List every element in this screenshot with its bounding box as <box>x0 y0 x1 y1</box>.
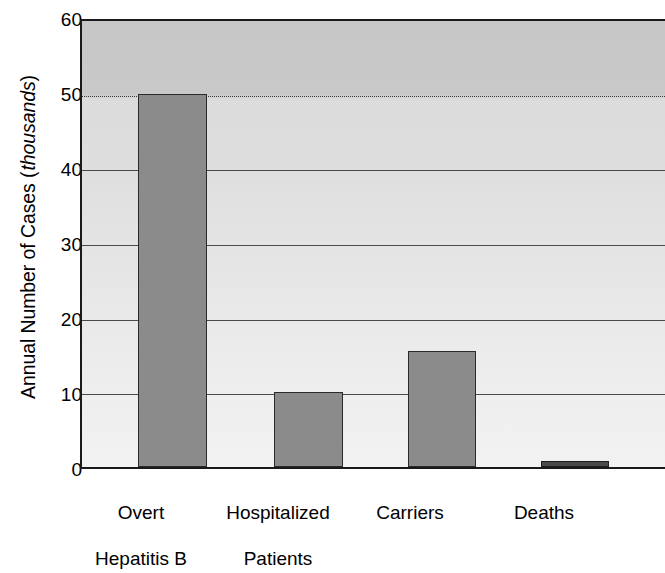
y-tick-label-30: 30 <box>34 235 82 254</box>
x-tick-label-line1: Overt <box>86 501 196 524</box>
bar-hospitalized-patients <box>274 392 343 467</box>
plot-inner <box>82 21 665 467</box>
bar-carriers <box>408 351 476 467</box>
y-tick-label-50: 50 <box>34 85 82 104</box>
x-tick-label-line1: Carriers <box>350 501 470 524</box>
x-tick-label-line2: Patients <box>222 547 334 570</box>
y-tick-label-0: 0 <box>34 460 82 479</box>
x-tick-label-hospitalized-patients: Hospitalized Patients <box>222 478 334 573</box>
bar-overt-hepatitis-b <box>138 94 207 467</box>
x-tick-label-carriers: Carriers <box>350 478 470 547</box>
y-axis-title-plain: Annual Number of Cases ( <box>17 172 40 399</box>
y-tick-label-60: 60 <box>34 10 82 29</box>
y-axis-title-tail: ) <box>17 75 40 81</box>
x-tick-label-deaths: Deaths <box>485 478 603 547</box>
y-tick-label-40: 40 <box>34 160 82 179</box>
x-tick-label-line1: Deaths <box>485 501 603 524</box>
y-tick-label-20: 20 <box>34 310 82 329</box>
x-tick-label-line2: Hepatitis B <box>86 547 196 570</box>
x-tick-label-overt-hepatitis-b: Overt Hepatitis B <box>86 478 196 573</box>
x-tick-label-line1: Hospitalized <box>222 501 334 524</box>
plot-area <box>80 19 665 469</box>
y-tick-label-10: 10 <box>34 385 82 404</box>
bar-deaths <box>541 461 609 467</box>
